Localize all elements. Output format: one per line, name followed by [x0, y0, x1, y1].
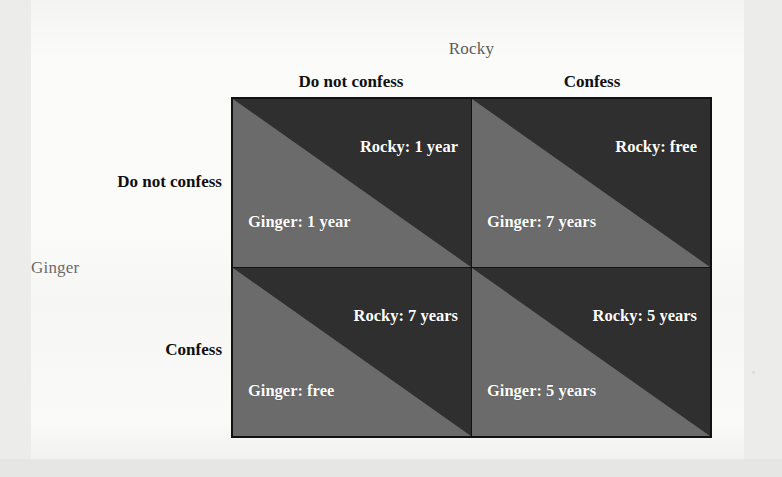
matrix-cell-confess-donotconfess[interactable]: Rocky: 7 years Ginger: free — [233, 268, 471, 436]
row-header-do-not-confess: Do not confess — [0, 172, 222, 192]
column-player-payoff: Rocky: 7 years — [354, 306, 458, 326]
scanned-page: Rocky Do not confess Confess Ginger Do n… — [0, 0, 782, 477]
matrix-cell-donotconfess-confess[interactable]: Rocky: free Ginger: 7 years — [472, 99, 710, 267]
matrix-cell-confess-confess[interactable]: Rocky: 5 years Ginger: 5 years — [472, 268, 710, 436]
row-player-payoff: Ginger: 7 years — [487, 212, 596, 232]
row-header-confess: Confess — [0, 340, 222, 360]
column-header-do-not-confess: Do not confess — [231, 72, 471, 92]
column-header-confess: Confess — [472, 72, 712, 92]
column-player-payoff: Rocky: free — [615, 137, 697, 157]
row-player-payoff: Ginger: 5 years — [487, 381, 596, 401]
row-player-payoff: Ginger: free — [248, 381, 334, 401]
scan-speck — [752, 371, 755, 374]
column-player-label: Rocky — [231, 39, 712, 59]
column-player-payoff: Rocky: 5 years — [593, 306, 697, 326]
page-bottom-margin — [0, 459, 782, 477]
matrix-cell-donotconfess-donotconfess[interactable]: Rocky: 1 year Ginger: 1 year — [233, 99, 471, 267]
row-player-label: Ginger — [31, 258, 79, 278]
column-player-payoff: Rocky: 1 year — [360, 137, 458, 157]
payoff-matrix: Rocky: 1 year Ginger: 1 year Rocky: free… — [231, 97, 712, 438]
row-player-payoff: Ginger: 1 year — [248, 212, 351, 232]
